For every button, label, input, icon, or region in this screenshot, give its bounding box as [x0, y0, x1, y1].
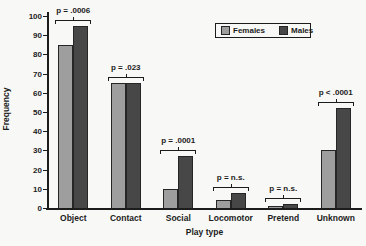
males-swatch — [279, 26, 288, 35]
bracket-part — [90, 20, 91, 24]
bracket-part — [108, 77, 144, 78]
x-tick-label-social: Social — [148, 213, 208, 223]
x-tick-label-locomotor: Locomotor — [201, 213, 261, 223]
y-tick-mark-0 — [43, 208, 47, 209]
significance-bracket-contact — [108, 77, 144, 81]
x-tick-label-pretend: Pretend — [253, 213, 313, 223]
bracket-part — [318, 102, 319, 106]
bracket-part — [283, 195, 284, 198]
bracket-part — [160, 150, 196, 151]
y-tick-label-30: 30 — [16, 146, 42, 155]
p-value-label-pretend: p = n.s. — [248, 184, 318, 193]
bracket-part — [55, 20, 56, 24]
x-axis-title: Play type — [47, 227, 362, 237]
bracket-part — [160, 150, 161, 154]
bar-females-unknown — [321, 150, 336, 208]
y-tick-mark-80 — [43, 54, 47, 55]
p-value-label-locomotor: p = n.s. — [196, 173, 266, 182]
legend: Females Males — [215, 23, 311, 38]
significance-bracket-social — [160, 150, 196, 154]
bracket-part — [318, 102, 354, 103]
y-tick-mark-40 — [43, 131, 47, 132]
bracket-part — [195, 150, 196, 154]
y-axis-line — [47, 12, 49, 209]
x-axis-line — [46, 208, 362, 210]
y-tick-label-10: 10 — [16, 184, 42, 193]
x-tick-label-contact: Contact — [96, 213, 156, 223]
significance-bracket-object — [55, 20, 91, 24]
legend-label-females: Females — [233, 26, 265, 35]
bar-males-object — [73, 26, 88, 208]
bar-females-contact — [111, 83, 126, 208]
p-value-label-contact: p = .023 — [91, 63, 161, 72]
bracket-part — [265, 198, 266, 202]
bar-males-locomotor — [231, 193, 246, 208]
bar-males-contact — [126, 83, 141, 208]
y-tick-label-50: 50 — [16, 108, 42, 117]
bar-females-object — [58, 45, 73, 208]
y-tick-mark-60 — [43, 93, 47, 94]
bracket-part — [108, 77, 109, 81]
significance-bracket-pretend — [265, 198, 301, 202]
legend-label-males: Males — [291, 26, 313, 35]
bracket-part — [73, 17, 74, 20]
bracket-part — [143, 77, 144, 81]
y-tick-label-20: 20 — [16, 165, 42, 174]
bar-males-unknown — [336, 108, 351, 208]
y-tick-label-0: 0 — [16, 204, 42, 213]
bar-females-social — [163, 189, 178, 208]
bracket-part — [126, 74, 127, 77]
x-tick-label-unknown: Unknown — [306, 213, 366, 223]
females-swatch — [221, 26, 230, 35]
p-value-label-social: p = .0001 — [143, 136, 213, 145]
y-tick-label-80: 80 — [16, 50, 42, 59]
bracket-part — [353, 102, 354, 106]
bracket-part — [265, 198, 301, 199]
bar-males-social — [178, 156, 193, 208]
y-tick-label-70: 70 — [16, 69, 42, 78]
y-tick-mark-10 — [43, 189, 47, 190]
significance-bracket-locomotor — [213, 187, 249, 191]
bar-females-locomotor — [216, 200, 231, 208]
y-axis-title: Frequency — [1, 69, 11, 149]
y-tick-mark-90 — [43, 35, 47, 36]
legend-item-males: Males — [279, 26, 313, 35]
bracket-part — [231, 184, 232, 187]
bracket-part — [213, 187, 249, 188]
legend-item-females: Females — [221, 26, 265, 35]
bar-females-pretend — [268, 206, 283, 208]
bracket-part — [213, 187, 214, 191]
bar-chart: Frequency Play type Females Males 010203… — [0, 0, 366, 246]
bracket-part — [300, 198, 301, 202]
bracket-part — [336, 99, 337, 102]
y-tick-label-40: 40 — [16, 127, 42, 136]
p-value-label-unknown: p < .0001 — [301, 88, 366, 97]
bracket-part — [55, 20, 91, 21]
significance-bracket-unknown — [318, 102, 354, 106]
y-tick-label-90: 90 — [16, 31, 42, 40]
bar-males-pretend — [283, 204, 298, 208]
y-tick-mark-100 — [43, 16, 47, 17]
y-tick-label-60: 60 — [16, 88, 42, 97]
y-tick-mark-70 — [43, 74, 47, 75]
y-tick-mark-20 — [43, 170, 47, 171]
y-tick-mark-30 — [43, 150, 47, 151]
p-value-label-object: p = .0006 — [38, 6, 108, 15]
y-tick-mark-50 — [43, 112, 47, 113]
x-tick-label-object: Object — [43, 213, 103, 223]
bracket-part — [178, 147, 179, 150]
